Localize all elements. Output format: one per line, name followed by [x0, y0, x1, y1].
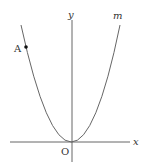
curve-m-label: m [113, 10, 122, 21]
x-axis-label: x [133, 136, 139, 147]
origin-label: O [61, 146, 69, 157]
y-axis-label: y [67, 9, 74, 20]
parabola-m [21, 25, 120, 142]
coordinate-diagram: A y m x O [0, 0, 147, 167]
point-a-marker [24, 45, 28, 49]
point-a-label: A [13, 43, 22, 54]
